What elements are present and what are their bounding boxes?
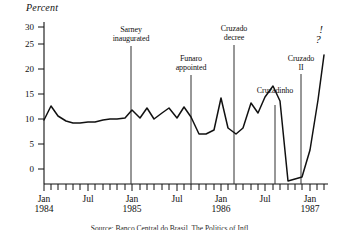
y-tick-label-10: 10 [14, 114, 34, 124]
y-tick-label-30: 30 [14, 22, 34, 32]
annotation-funaro-line2: appointed [156, 63, 226, 73]
annotation-sarney-line2: inaugurated [96, 34, 166, 44]
y-tick-label-0: 0 [14, 164, 34, 174]
annotation-cruzadinho: Cruzadinho [240, 86, 310, 96]
annotation-cruzado-line2: decree [199, 33, 269, 43]
y-tick-label-15: 15 [14, 89, 34, 99]
x-tick-label-jan-1986-year: 1986 [201, 204, 241, 214]
x-tick-label-jan-1986-month: Jan [201, 194, 241, 204]
y-tick-label-20: 20 [14, 64, 34, 74]
x-tick-label-jul-1984: Jul [68, 194, 108, 204]
chart-figure: Percent [0, 0, 339, 230]
y-tick-label-5: 5 [14, 139, 34, 149]
y-tick-marks [38, 27, 44, 169]
x-tick-label-jan-1985-year: 1985 [112, 204, 152, 214]
annotation-question: ? [311, 34, 325, 44]
x-tick-label-jan-1984-year: 1984 [24, 204, 64, 214]
x-tick-label-jul-1985: Jul [157, 194, 197, 204]
x-tick-marks [44, 184, 324, 191]
x-tick-label-jan-1987-year: 1987 [290, 204, 330, 214]
figure-caption: Source: Banco Central do Brasil. The Pol… [0, 224, 339, 230]
x-tick-label-jan-1987-month: Jan [290, 194, 330, 204]
inflation-series-line [44, 55, 324, 181]
x-tick-label-jul-1986: Jul [245, 194, 285, 204]
x-tick-label-jan-1984-month: Jan [24, 194, 64, 204]
annotation-cruzado-ii-line2: II [266, 63, 336, 73]
x-tick-label-jan-1985-month: Jan [112, 194, 152, 204]
y-tick-label-25: 25 [14, 39, 34, 49]
